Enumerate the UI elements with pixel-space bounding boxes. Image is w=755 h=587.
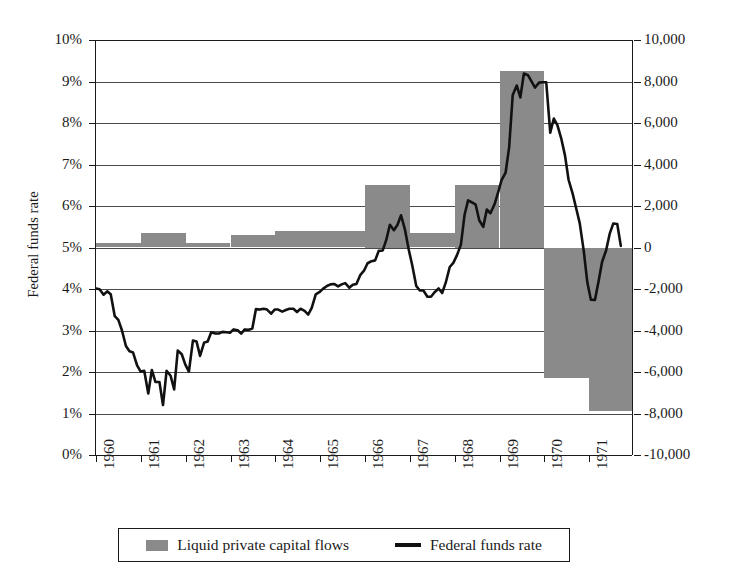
y-tick-left <box>89 123 96 124</box>
line-path <box>96 73 621 405</box>
y-tick-left <box>89 372 96 373</box>
y-tick-right <box>634 248 641 249</box>
y-tick-left <box>89 165 96 166</box>
y-tick-label-right: -2,000 <box>644 281 683 296</box>
x-tick-label: 1969 <box>505 439 522 469</box>
y-tick-label-left: 8% <box>30 115 82 130</box>
x-tick-label: 1962 <box>191 439 208 469</box>
legend-label: Liquid private capital flows <box>177 536 349 554</box>
y-tick-right <box>634 40 641 41</box>
plot-area <box>95 40 633 455</box>
y-tick-right <box>634 123 641 124</box>
y-tick-label-left: 6% <box>30 198 82 213</box>
legend-line-swatch-icon <box>395 543 421 547</box>
y-tick-left <box>89 289 96 290</box>
y-tick-label-right: -6,000 <box>644 364 683 379</box>
y-tick-right <box>634 455 641 456</box>
y-tick-label-left: 1% <box>30 406 82 421</box>
y-tick-label-right: -4,000 <box>644 323 683 338</box>
y-tick-right <box>634 165 641 166</box>
y-tick-label-left: 0% <box>30 447 82 462</box>
y-tick-left <box>89 206 96 207</box>
y-tick-right <box>634 414 641 415</box>
legend-bar-swatch-icon <box>146 540 168 551</box>
y-tick-label-right: -8,000 <box>644 406 683 421</box>
x-tick-label: 1965 <box>325 439 342 469</box>
y-tick-label-left: 10% <box>30 32 82 47</box>
y-tick-label-left: 2% <box>30 364 82 379</box>
x-tick <box>231 455 232 462</box>
y-tick-right <box>634 289 641 290</box>
y-tick-label-right: 8,000 <box>644 74 678 89</box>
x-tick-label: 1970 <box>549 439 566 469</box>
y-tick-label-left: 4% <box>30 281 82 296</box>
x-tick <box>589 455 590 462</box>
y-tick-label-left: 5% <box>30 240 82 255</box>
y-tick-label-left: 3% <box>30 323 82 338</box>
y-tick-label-left: 9% <box>30 74 82 89</box>
x-tick-label: 1964 <box>280 439 297 469</box>
x-tick-label: 1968 <box>460 439 477 469</box>
y-tick-label-right: 6,000 <box>644 115 678 130</box>
y-tick-label-right: 2,000 <box>644 198 678 213</box>
x-tick <box>320 455 321 462</box>
x-tick-label: 1966 <box>370 439 387 469</box>
y-tick-label-left: 7% <box>30 157 82 172</box>
x-tick-label: 1961 <box>146 439 163 469</box>
y-tick-right <box>634 331 641 332</box>
y-tick-label-right: 10,000 <box>644 32 685 47</box>
legend-entry: Liquid private capital flows <box>146 536 349 554</box>
legend-entry: Federal funds rate <box>395 536 542 554</box>
legend-label: Federal funds rate <box>430 536 542 554</box>
x-tick <box>186 455 187 462</box>
y-tick-label-right: 0 <box>644 240 652 255</box>
y-tick-right <box>634 206 641 207</box>
x-tick-label: 1960 <box>101 439 118 469</box>
x-tick <box>455 455 456 462</box>
y-tick-left <box>89 82 96 83</box>
x-tick <box>365 455 366 462</box>
x-tick <box>500 455 501 462</box>
x-tick <box>141 455 142 462</box>
y-tick-label-right: -10,000 <box>644 447 690 462</box>
y-tick-left <box>89 455 96 456</box>
y-tick-left <box>89 414 96 415</box>
y-tick-left <box>89 40 96 41</box>
x-tick <box>410 455 411 462</box>
line-series-federal-funds-rate <box>96 40 632 453</box>
x-tick <box>275 455 276 462</box>
x-tick-label: 1967 <box>415 439 432 469</box>
chart-figure: Federal funds rate Liquid private capita… <box>0 0 755 587</box>
y-tick-right <box>634 372 641 373</box>
x-tick <box>96 455 97 462</box>
y-tick-left <box>89 331 96 332</box>
x-tick-label: 1971 <box>594 439 611 469</box>
y-tick-right <box>634 82 641 83</box>
series-layer <box>96 40 632 455</box>
x-tick <box>544 455 545 462</box>
chart-legend: Liquid private capital flowsFederal fund… <box>118 528 570 562</box>
y-tick-label-right: 4,000 <box>644 157 678 172</box>
y-tick-left <box>89 248 96 249</box>
x-tick-label: 1963 <box>236 439 253 469</box>
